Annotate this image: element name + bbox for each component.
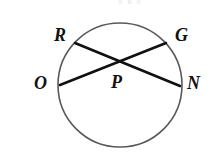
point-label-r: R xyxy=(54,26,66,44)
chord-rn xyxy=(75,43,180,86)
point-label-p: P xyxy=(111,73,122,91)
point-label-o: O xyxy=(34,74,47,92)
point-label-n: N xyxy=(187,74,200,92)
point-label-g: G xyxy=(175,26,188,44)
geometry-figure: R G O N P xyxy=(0,0,220,153)
